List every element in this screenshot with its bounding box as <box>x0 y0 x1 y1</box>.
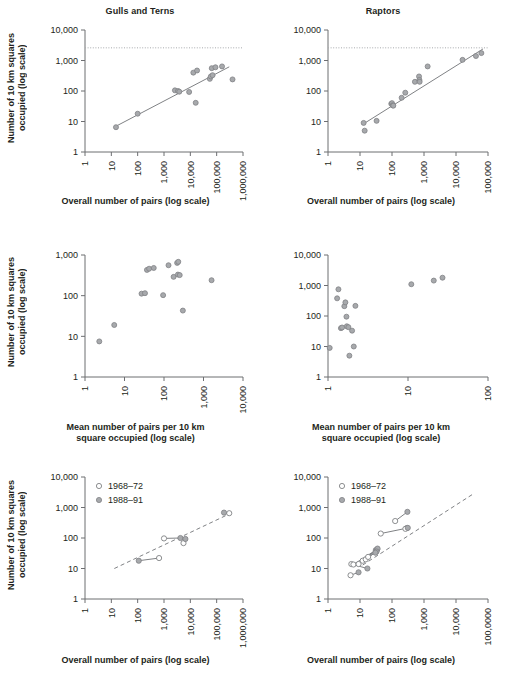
x-tick-label: 10 <box>355 608 365 618</box>
x-tick-label: 1 <box>323 161 333 166</box>
y-tick-label: 1 <box>316 147 321 157</box>
data-point <box>209 278 214 283</box>
legend-label-early: 1968–72 <box>351 481 386 491</box>
y-tick-label: 100 <box>306 311 321 321</box>
data-point <box>161 293 166 298</box>
data-point <box>399 95 404 100</box>
legend-marker-early <box>96 483 101 488</box>
data-point <box>350 328 355 333</box>
x-tick-label: 1,000,000 <box>238 608 248 648</box>
x-tick-label: 1 <box>323 608 333 613</box>
y-tick-label: 10 <box>311 564 321 574</box>
data-point <box>113 125 118 130</box>
x-tick-label: 10 <box>355 161 365 171</box>
y-tick-label: 1 <box>73 372 78 382</box>
data-point <box>230 77 235 82</box>
data-point <box>353 303 358 308</box>
x-axis-label: Overall number of pairs (log scale) <box>271 655 491 666</box>
x-tick-label: 100,0000 <box>483 608 493 646</box>
data-point <box>391 103 396 108</box>
data-point <box>210 73 215 78</box>
y-tick-label: 1 <box>316 594 321 604</box>
data-point <box>473 54 478 59</box>
data-point <box>351 344 356 349</box>
data-point <box>195 68 200 73</box>
x-tick-label: 1,000 <box>419 608 429 631</box>
data-point <box>343 300 348 305</box>
y-tick-label: 1,000 <box>298 56 321 66</box>
data-point-late <box>373 550 378 555</box>
x-tick-label: 10 <box>403 386 413 396</box>
data-point <box>362 128 367 133</box>
data-point <box>340 325 345 330</box>
x-tick-label: 1 <box>80 608 90 613</box>
y-tick-label: 100 <box>63 86 78 96</box>
data-point-late <box>365 566 370 571</box>
data-point-late <box>136 558 141 563</box>
x-axis-label: Mean number of pairs per 10 kmsquare occ… <box>271 422 491 444</box>
data-point <box>409 282 414 287</box>
x-axis-label: Overall number of pairs (log scale) <box>28 196 243 207</box>
x-tick-label: 10,000 <box>451 608 461 636</box>
data-point <box>151 265 156 270</box>
data-point <box>440 275 445 280</box>
pair-connector <box>139 558 159 561</box>
data-point <box>180 308 185 313</box>
y-tick-label: 10 <box>311 117 321 127</box>
data-point-early <box>393 518 398 523</box>
x-tick-label: 10 <box>107 161 117 171</box>
y-tick-label: 10,000 <box>293 250 321 260</box>
y-tick-label: 1 <box>73 147 78 157</box>
x-tick-label: 1,000 <box>419 161 429 184</box>
x-tick-label: 100 <box>159 386 169 401</box>
x-tick-label: 100 <box>387 608 397 623</box>
y-tick-label: 10,000 <box>50 25 78 35</box>
legend-label-late: 1988–91 <box>108 495 143 505</box>
data-point <box>347 353 352 358</box>
data-point <box>403 90 408 95</box>
y-tick-label: 100 <box>306 533 321 543</box>
plot-area: 1101001,00010,0001101001,00010,000100,00… <box>0 455 253 687</box>
y-tick-label: 1 <box>73 594 78 604</box>
data-point <box>344 314 349 319</box>
y-tick-label: 1 <box>316 372 321 382</box>
data-point <box>97 339 102 344</box>
y-tick-label: 10 <box>68 332 78 342</box>
x-tick-label: 100,000 <box>212 161 222 194</box>
x-tick-label: 1 <box>80 386 90 391</box>
y-tick-label: 10,000 <box>50 472 78 482</box>
data-point <box>460 57 465 62</box>
data-point-early <box>348 573 353 578</box>
x-tick-label: 100 <box>133 161 143 176</box>
plot-area: 1101001,00010,0001101001,00010,000100,00… <box>253 455 507 687</box>
figure-root: Gulls and Terns Number of 10 km squareso… <box>0 0 507 687</box>
x-tick-label: 10,000 <box>186 608 196 636</box>
y-tick-label: 10 <box>311 342 321 352</box>
legend-label-late: 1988–91 <box>351 495 386 505</box>
data-point <box>177 273 182 278</box>
data-point <box>479 51 484 56</box>
x-tick-label: 1,000 <box>159 161 169 184</box>
data-point <box>336 287 341 292</box>
y-tick-label: 1,000 <box>55 503 78 513</box>
x-tick-label: 1,000 <box>199 386 209 409</box>
x-tick-label: 1,000 <box>159 608 169 631</box>
legend-marker-late <box>96 497 101 502</box>
data-point <box>112 322 117 327</box>
x-tick-label: 1 <box>323 386 333 391</box>
x-tick-label: 1 <box>80 161 90 166</box>
data-point <box>425 64 430 69</box>
y-tick-label: 100 <box>63 533 78 543</box>
y-tick-label: 100 <box>306 86 321 96</box>
y-tick-label: 10,000 <box>293 472 321 482</box>
data-point <box>374 118 379 123</box>
data-point <box>417 79 422 84</box>
x-tick-label: 10,000 <box>186 161 196 189</box>
data-point-late <box>405 509 410 514</box>
data-point-early <box>161 536 166 541</box>
panel-gulls-terns-mean: Number of 10 km squaresoccupied (log sca… <box>0 230 253 462</box>
data-point-late <box>221 510 226 515</box>
data-point <box>213 65 218 70</box>
data-point-early <box>351 562 356 567</box>
y-tick-label: 10 <box>68 564 78 574</box>
